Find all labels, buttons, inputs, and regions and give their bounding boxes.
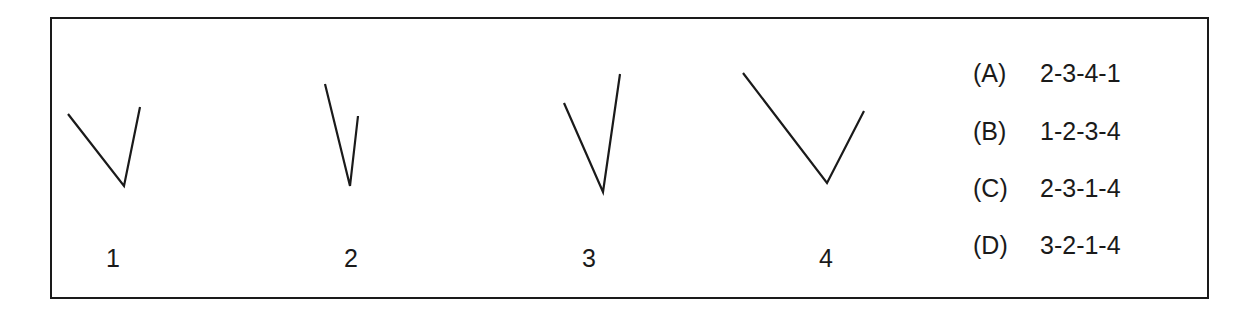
option-key: (A): [973, 61, 1040, 86]
option-key: (C): [973, 176, 1040, 201]
figure-label-1: 1: [106, 246, 120, 271]
option-b[interactable]: (B)1-2-3-4: [973, 119, 1121, 144]
option-key: (D): [973, 233, 1040, 258]
option-value: 2-3-1-4: [1040, 174, 1121, 202]
angle-figure-3: [564, 74, 620, 192]
figure-label-3: 3: [582, 246, 596, 271]
angle-figure-1: [68, 107, 140, 186]
option-key: (B): [973, 119, 1040, 144]
angle-figure-4: [743, 73, 864, 183]
option-a[interactable]: (A)2-3-4-1: [973, 61, 1121, 86]
angle-figures: [0, 0, 1259, 313]
figure-label-4: 4: [819, 246, 833, 271]
option-c[interactable]: (C)2-3-1-4: [973, 176, 1121, 201]
figure-label-2: 2: [344, 246, 358, 271]
option-value: 2-3-4-1: [1040, 59, 1121, 87]
angle-figure-2: [325, 84, 358, 186]
option-d[interactable]: (D)3-2-1-4: [973, 233, 1121, 258]
option-value: 1-2-3-4: [1040, 117, 1121, 145]
option-value: 3-2-1-4: [1040, 231, 1121, 259]
